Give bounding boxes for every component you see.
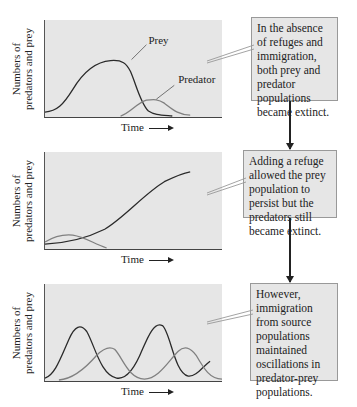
- population-curves-1: Prey Predator: [45, 20, 222, 117]
- note-box-immigration: However, immigration from source populat…: [250, 283, 338, 381]
- prey-curve: [45, 60, 172, 116]
- note-box-no-refuge: In the absence of refuges and immigratio…: [251, 17, 338, 101]
- x-axis-label-1: Time: [121, 121, 171, 133]
- population-curves-2: [45, 152, 222, 249]
- chart-panel-refuge: [44, 152, 222, 250]
- y-axis-label-1: Numbers ofpredators and prey: [0, 20, 44, 118]
- chart-panel-no-refuge: Prey Predator: [44, 20, 222, 118]
- y-axis-label-line1: Numbers of: [10, 292, 22, 374]
- y-axis-label-line2: predators and prey: [22, 292, 34, 374]
- flow-arrow-down-icon: [289, 101, 291, 149]
- y-axis-label-2: Numbers ofpredators and prey: [0, 152, 44, 250]
- prey-label: Prey: [148, 34, 169, 46]
- note-box-refuge: Adding a refuge allowed the prey populat…: [243, 150, 337, 218]
- predator-curve: [45, 235, 107, 248]
- prey-curve: [45, 325, 210, 378]
- arrow-right-icon: [149, 128, 171, 129]
- y-axis-label-line1: Numbers of: [10, 160, 22, 242]
- arrow-right-icon: [149, 392, 171, 393]
- flow-arrow-down-icon: [289, 218, 291, 282]
- x-axis-label-3: Time: [121, 385, 171, 397]
- x-axis-label-2: Time: [121, 253, 171, 265]
- chart-panel-immigration: [44, 284, 222, 382]
- y-axis-label-3: Numbers ofpredators and prey: [0, 284, 44, 382]
- y-axis-label-line2: predators and prey: [22, 160, 34, 242]
- arrow-right-icon: [149, 260, 171, 261]
- y-axis-label-line1: Numbers of: [10, 28, 22, 110]
- y-axis-label-line2: predators and prey: [22, 28, 34, 110]
- prey-curve: [45, 172, 190, 244]
- predator-label: Predator: [178, 73, 215, 85]
- population-curves-3: [45, 284, 222, 381]
